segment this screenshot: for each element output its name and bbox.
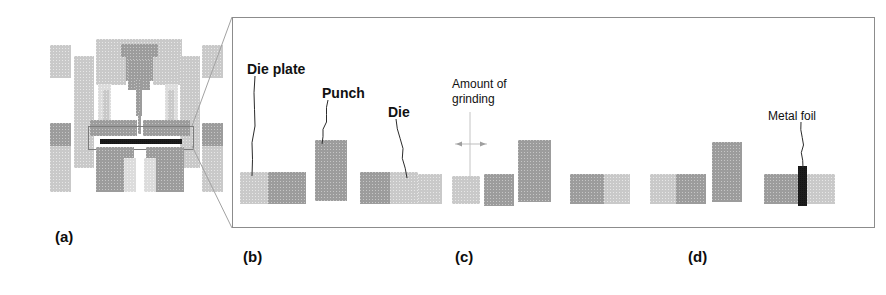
panel-tag-c: (c) [455, 248, 473, 265]
panel-tag-a: (a) [55, 228, 73, 245]
panel-tag-d: (d) [688, 248, 707, 265]
figure-root: Die platePunchDieAmount ofgrindingMetal … [0, 0, 886, 295]
panel-tag-b: (b) [243, 248, 262, 265]
panel-caption-tags: (a)(b)(c)(d) [0, 0, 886, 295]
